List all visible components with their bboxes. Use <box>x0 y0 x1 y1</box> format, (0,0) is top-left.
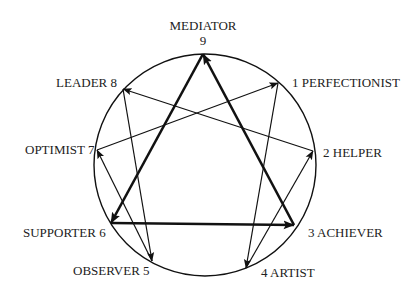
label-mediator-number: 9 <box>153 34 253 48</box>
label-perfectionist: 1 PERFECTIONIST <box>292 76 400 90</box>
arrow-layer <box>97 54 313 268</box>
label-supporter: SUPPORTER 6 <box>23 226 106 240</box>
arrow-9-to-6 <box>111 54 203 223</box>
label-mediator-name: MEDIATOR <box>153 19 253 33</box>
arrow-5-to-7 <box>97 150 152 261</box>
arrow-8-to-5 <box>123 89 152 261</box>
label-helper: 2 HELPER <box>323 146 382 160</box>
label-observer: OBSERVER 5 <box>73 264 150 278</box>
enneagram-circle <box>94 54 316 276</box>
label-artist: 4 ARTIST <box>261 266 315 280</box>
label-achiever: 3 ACHIEVER <box>308 226 383 240</box>
label-optimist: OPTIMIST 7 <box>25 143 94 157</box>
arrow-3-to-9 <box>203 54 294 225</box>
label-leader: LEADER 8 <box>56 76 117 90</box>
arrow-2-to-8 <box>123 89 313 151</box>
arrow-6-to-3 <box>111 223 294 225</box>
